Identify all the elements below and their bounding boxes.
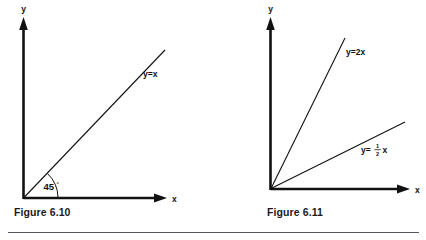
shallow-line-label-denominator: 2 [376, 151, 379, 157]
figure-6-11-group: y x y=2x y= 1 2 x [266, 4, 420, 195]
shallow-line-label-prefix: y= [361, 145, 371, 155]
angle-label-45-value: 45 [44, 181, 55, 192]
x-axis-label-left: x [172, 194, 177, 204]
y-axis-label-left: y [21, 4, 26, 14]
figure-caption-right: Figure 6.11 [267, 206, 323, 218]
x-axis-arrowhead-right [397, 185, 410, 194]
footer-divider [8, 232, 419, 233]
steep-line-label: y=2x [346, 47, 365, 57]
steep-line [271, 38, 345, 189]
shallow-line-label: y= 1 2 x [361, 143, 388, 156]
figures-canvas: y x 45 ° y=x y x [0, 0, 426, 240]
figure-sheet: y x 45 ° y=x y x [0, 0, 426, 240]
figure-6-10-group: y x 45 ° y=x [19, 4, 177, 204]
x-axis-arrowhead-left [154, 194, 167, 203]
angle-label-45-degree-sign: ° [57, 181, 60, 187]
shallow-line-label-suffix: x [383, 145, 388, 155]
x-axis-label-right: x [415, 185, 420, 195]
y-axis-arrowhead-right [266, 17, 275, 30]
identity-line-label: y=x [143, 69, 158, 79]
shallow-line-label-numerator: 1 [376, 143, 379, 149]
y-axis-arrowhead-left [19, 17, 28, 30]
shallow-line [271, 122, 405, 189]
figure-caption-left: Figure 6.10 [14, 206, 71, 218]
y-axis-label-right: y [268, 4, 273, 14]
